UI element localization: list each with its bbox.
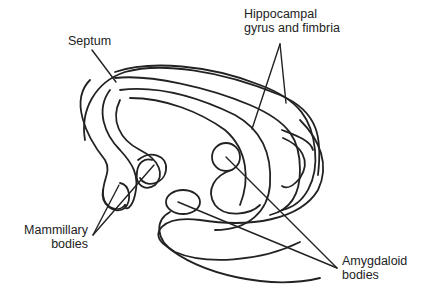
hippocampal-end-cap — [282, 130, 313, 188]
label-amygdaloid: Amygdaloid bodies — [342, 254, 407, 282]
limbic-diagram: Septum Hippocampal gyrus and fimbria Mam… — [0, 0, 423, 288]
leader-mammillary-2 — [93, 165, 154, 235]
label-amygdaloid-line1: Amygdaloid — [342, 254, 407, 268]
leader-septum — [92, 50, 116, 82]
left-arm-inner — [116, 100, 160, 188]
label-mammillary: Mammillary bodies — [12, 223, 88, 251]
inner-band-2 — [130, 98, 246, 205]
label-mammillary-line1: Mammillary — [12, 223, 88, 237]
amygdaloid-body-lower — [166, 190, 200, 214]
label-amygdaloid-line2: bodies — [342, 268, 407, 282]
label-hippocampal-line2: gyrus and fimbria — [244, 21, 340, 35]
label-hippocampal-line1: Hippocampal — [244, 7, 340, 21]
label-mammillary-line2: bodies — [12, 237, 88, 251]
label-septum: Septum — [68, 34, 111, 48]
amygdaloid-upper-stalk — [211, 170, 260, 214]
label-septum-text: Septum — [68, 34, 111, 48]
label-hippocampal: Hippocampal gyrus and fimbria — [244, 7, 340, 35]
